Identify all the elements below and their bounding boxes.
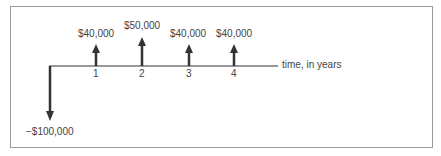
- arrow-head-up-icon: [138, 37, 146, 46]
- arrow-head-up-icon: [185, 44, 193, 53]
- arrow-head-down-icon: [46, 111, 54, 121]
- arrow-head-up-icon: [230, 44, 238, 53]
- flow-label-year-4: $40,000: [216, 28, 252, 39]
- arrow-head-up-icon: [92, 44, 100, 53]
- time-axis-label: time, in years: [282, 59, 341, 70]
- flow-label-year-3: $40,000: [170, 28, 206, 39]
- flow-label-year-1: $40,000: [78, 28, 114, 39]
- tick-year-3: 3: [186, 68, 192, 79]
- tick-year-1: 1: [93, 68, 99, 79]
- initial-outflow-label: −$100,000: [26, 126, 74, 137]
- flow-label-year-2: $50,000: [124, 20, 160, 31]
- tick-year-2: 2: [139, 68, 145, 79]
- tick-year-4: 4: [231, 68, 237, 79]
